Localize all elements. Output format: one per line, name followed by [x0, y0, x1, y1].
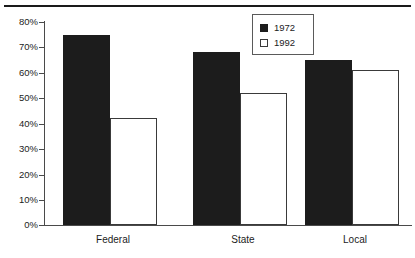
- y-tick-label-60-wrap: 60%: [0, 68, 38, 78]
- y-tick-label-0: 0%: [2, 220, 38, 230]
- y-tick-label-60: 60%: [2, 68, 38, 78]
- x-category-label-local: Local: [305, 234, 405, 246]
- hollow-square-icon: [260, 39, 268, 47]
- y-tick-label-30: 30%: [2, 144, 38, 154]
- y-tick-label-10: 10%: [2, 195, 38, 205]
- y-tick-label-10-wrap: 10%: [0, 195, 38, 205]
- legend-label-1972: 1972: [274, 23, 295, 33]
- y-tick-label-70: 70%: [2, 42, 38, 52]
- bar-state-1992: [240, 93, 287, 225]
- y-tick-label-30-wrap: 30%: [0, 144, 38, 154]
- x-category-label-state: State: [193, 234, 293, 246]
- y-tick-label-80: 80%: [2, 17, 38, 27]
- y-tick-label-20-wrap: 20%: [0, 170, 38, 180]
- bar-local-1992: [352, 70, 399, 225]
- y-tick-mark-0: [39, 225, 44, 226]
- y-tick-label-20: 20%: [2, 170, 38, 180]
- y-tick-label-40-wrap: 40%: [0, 119, 38, 129]
- filled-square-icon: [260, 24, 268, 32]
- chart-legend: 1972 1992: [252, 14, 314, 55]
- bar-local-1972: [305, 60, 352, 225]
- bar-state-1972: [193, 52, 240, 225]
- bar-federal-1972: [63, 35, 110, 225]
- legend-entry-1992: 1992: [260, 35, 313, 50]
- y-tick-label-0-wrap: 0%: [0, 220, 38, 230]
- y-tick-label-80-wrap: 80%: [0, 17, 38, 27]
- bar-chart-figure: 80% 70% 60% 50% 40% 30% 20% 10% 0%: [0, 0, 415, 258]
- bar-federal-1992: [110, 118, 157, 225]
- x-axis-line: [44, 225, 412, 226]
- y-tick-label-40: 40%: [2, 119, 38, 129]
- legend-label-1992: 1992: [274, 38, 295, 48]
- y-tick-label-70-wrap: 70%: [0, 42, 38, 52]
- x-category-label-federal: Federal: [63, 234, 163, 246]
- legend-entry-1972: 1972: [260, 20, 313, 35]
- y-tick-label-50: 50%: [2, 93, 38, 103]
- plot-area: [44, 22, 396, 225]
- y-tick-label-50-wrap: 50%: [0, 93, 38, 103]
- top-divider-rule: [4, 5, 411, 7]
